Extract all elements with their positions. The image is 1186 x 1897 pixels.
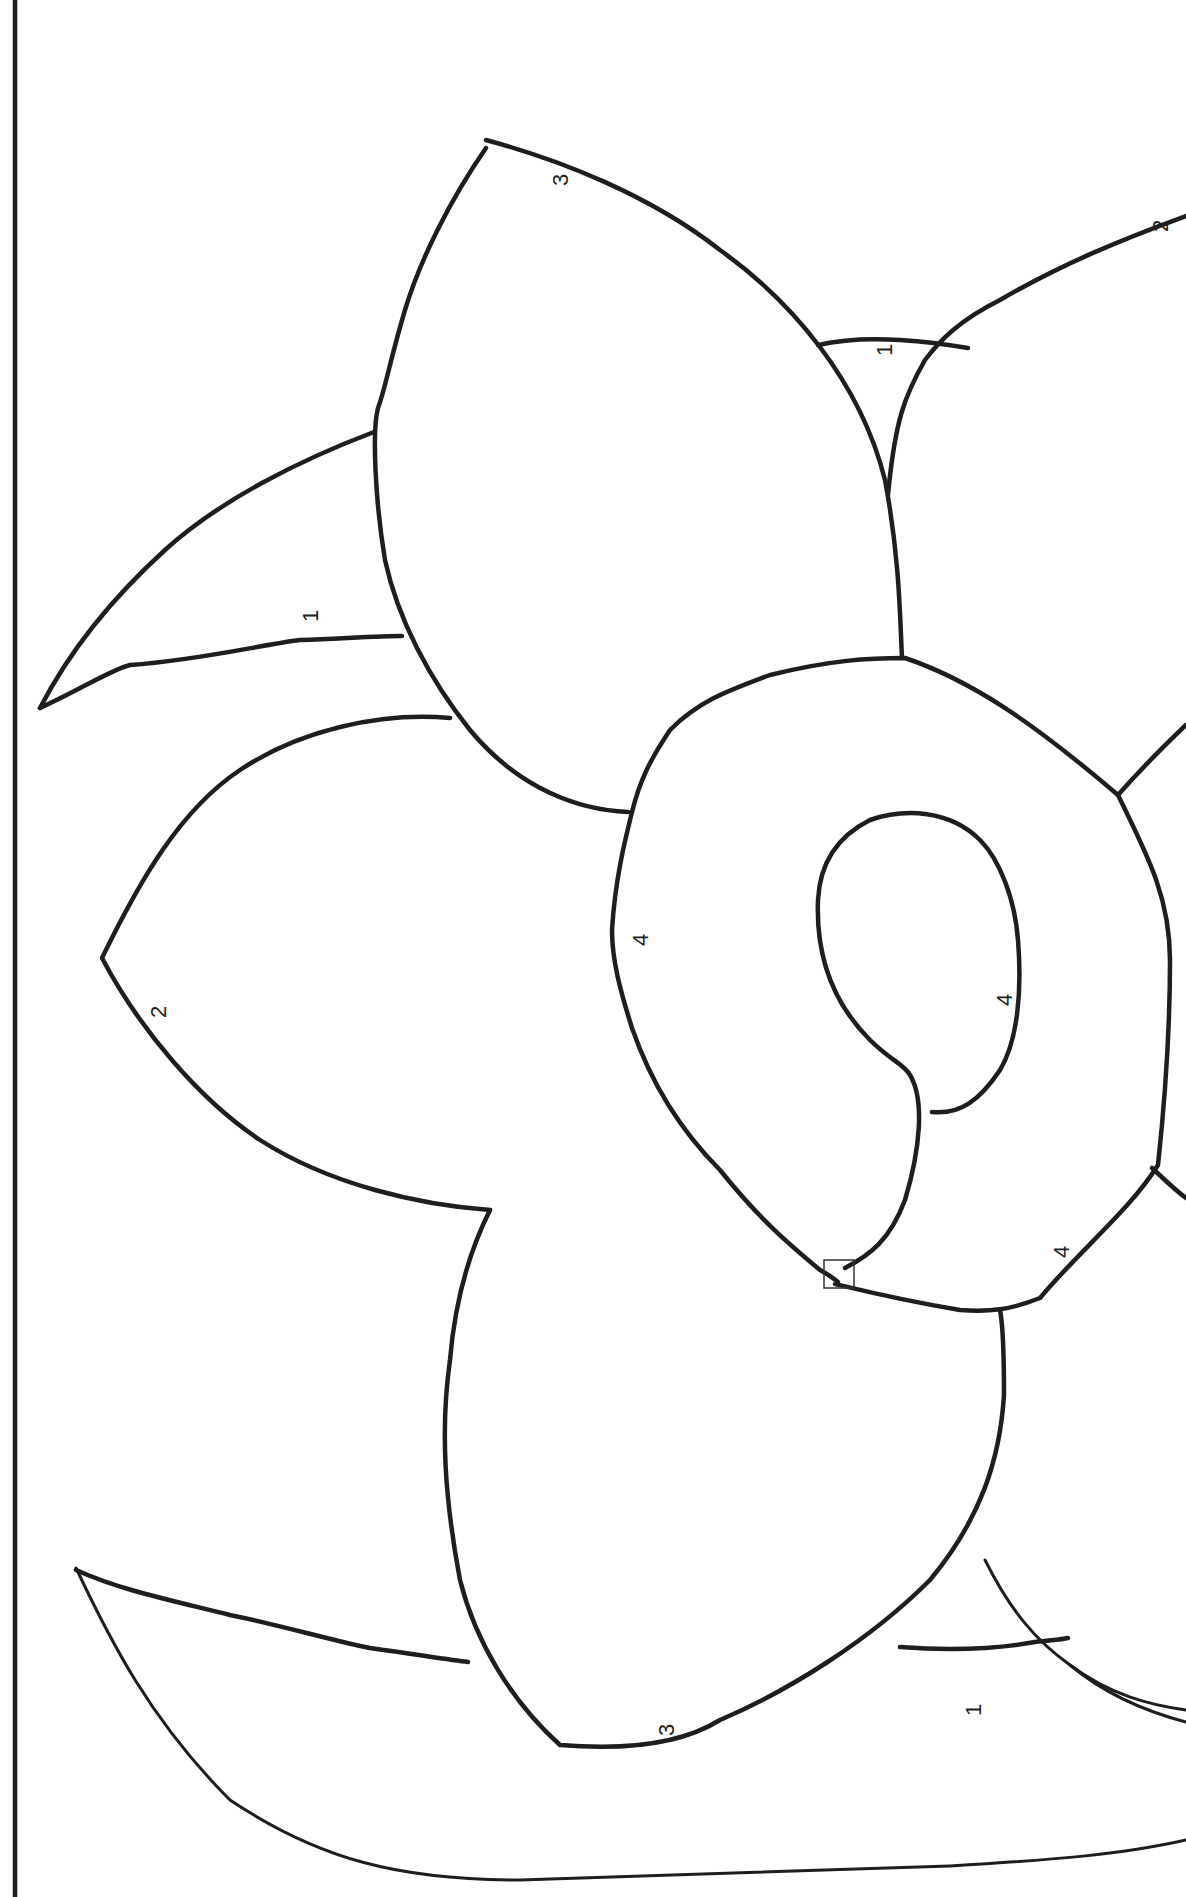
label-trumpet-outer: 4 — [628, 934, 653, 946]
label-bottom-petal: 3 — [654, 1724, 679, 1736]
label-top-right: 2 — [1148, 220, 1173, 232]
petal-top-right — [888, 216, 1186, 495]
petal-right-upper-edge — [1118, 725, 1186, 795]
leaf-left-top — [40, 432, 374, 708]
label-bottom-leaf: 1 — [961, 1704, 986, 1716]
daffodil-line-art: 3 2 1 1 2 4 4 4 1 3 — [0, 0, 1186, 1897]
petal-right-lower-edge — [1152, 1168, 1186, 1198]
label-left-petal: 2 — [146, 1006, 171, 1018]
trumpet-outer-left — [612, 812, 838, 1282]
leaf-bottom-long-inner — [76, 1570, 468, 1662]
leaf-bottom-right-curve — [1070, 1665, 1186, 1722]
label-left-leaf: 1 — [298, 610, 323, 622]
petal-top-left-edge — [375, 148, 628, 812]
coloring-page: 3 2 1 1 2 4 4 4 1 3 — [0, 0, 1186, 1897]
label-trumpet-inner: 4 — [992, 994, 1017, 1006]
label-top-middle-leaf: 1 — [872, 344, 897, 356]
trumpet-inner-spiral — [818, 813, 1020, 1268]
label-top-petal: 3 — [548, 174, 573, 186]
petal-bottom — [445, 1210, 1004, 1747]
label-trumpet-rim: 4 — [1049, 1246, 1074, 1258]
petal-top — [486, 140, 902, 658]
leaf-bottom-right-edge — [985, 1560, 1186, 1710]
petal-left — [102, 717, 490, 1210]
leaf-left-top-lower — [40, 636, 402, 708]
